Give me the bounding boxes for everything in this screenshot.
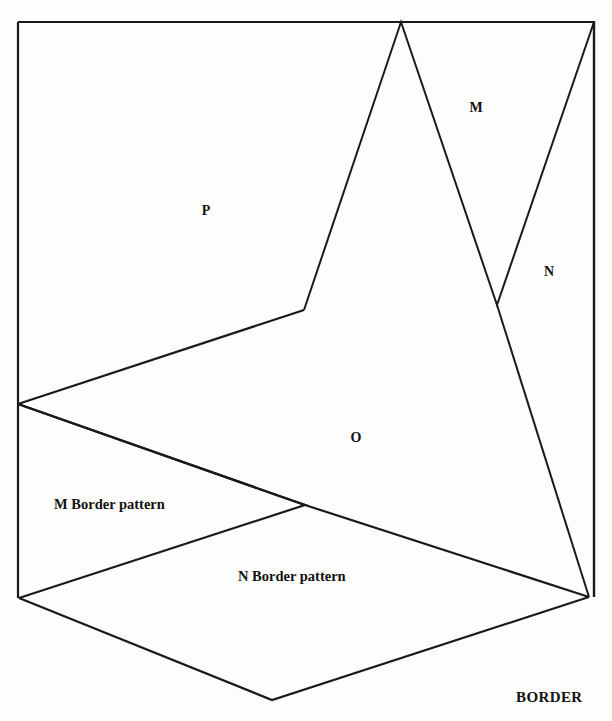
corner-label-border: BORDER bbox=[516, 689, 583, 705]
caption-m-border-pattern: M Border pattern bbox=[54, 496, 165, 512]
region-label-o-center: O bbox=[351, 430, 362, 445]
border-pattern-figure: P M N O M Border pattern N Border patter… bbox=[0, 0, 612, 721]
figure-background bbox=[0, 0, 612, 721]
region-label-n-right: N bbox=[544, 264, 554, 279]
diagram-canvas: P M N O M Border pattern N Border patter… bbox=[0, 0, 612, 721]
region-label-m-top: M bbox=[469, 100, 482, 115]
region-label-p: P bbox=[202, 203, 211, 218]
caption-n-border-pattern: N Border pattern bbox=[238, 568, 346, 584]
